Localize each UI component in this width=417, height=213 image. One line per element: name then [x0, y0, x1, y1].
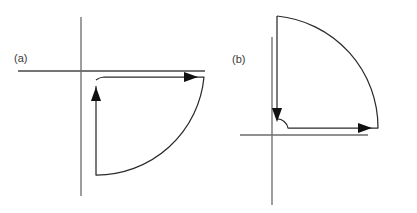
panel-a-arrow-up-icon: [91, 87, 101, 101]
panel-b-label: (b): [232, 53, 245, 65]
panel-a-arrow-right-icon: [184, 72, 198, 82]
panel-a: (a): [14, 17, 205, 196]
figure-container: (a) (b): [0, 0, 417, 213]
panel-a-contour-path: [96, 77, 204, 175]
panel-a-label: (a): [14, 52, 27, 64]
panel-b-arrow-right-icon: [358, 123, 372, 133]
panel-b: (b): [232, 16, 378, 205]
panel-b-contour-path: [277, 16, 378, 128]
contour-figure-svg: (a) (b): [0, 0, 417, 213]
